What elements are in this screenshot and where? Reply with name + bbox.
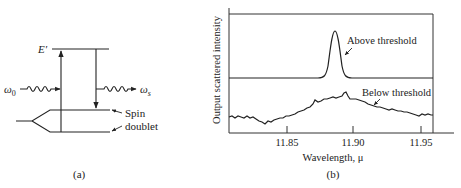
- x-tick-label: 11.85: [275, 137, 298, 148]
- y-axis-label: Output scattered intensity: [211, 15, 222, 124]
- x-axis-label: Wavelength, μ: [303, 152, 364, 163]
- input-photon-wave-icon: [20, 87, 60, 92]
- output-frequency-label: ωs: [140, 83, 151, 98]
- below-threshold-pointer-icon: [374, 99, 380, 105]
- doublet-pointer-upper-icon: [112, 110, 122, 113]
- excited-level-label: E′: [37, 43, 48, 55]
- x-tick-label: 11.95: [409, 137, 432, 148]
- doublet-label-line1: Spin: [125, 107, 146, 119]
- panel-a-caption: (a): [73, 168, 86, 181]
- panel-b-caption: (b): [327, 168, 340, 181]
- energy-level-diagram: E′ ω0 ωs Spin doublet (a): [4, 43, 158, 181]
- output-photon-wave-icon: [96, 87, 136, 92]
- x-tick-label: 11.90: [341, 137, 364, 148]
- input-frequency-label: ω0: [4, 83, 16, 98]
- above-threshold-label: Above threshold: [347, 35, 417, 46]
- spectrum-chart: 11.85 11.90 11.95 Output scattered inten…: [211, 8, 454, 181]
- above-threshold-pointer-icon: [345, 48, 352, 55]
- ground-level-split-lines: [16, 110, 110, 132]
- below-threshold-label: Below threshold: [362, 87, 432, 98]
- figure-canvas: E′ ω0 ωs Spin doublet (a) 11.85 11.90 11: [0, 0, 461, 188]
- doublet-label-line2: doublet: [125, 120, 158, 132]
- doublet-pointer-lower-icon: [112, 126, 122, 131]
